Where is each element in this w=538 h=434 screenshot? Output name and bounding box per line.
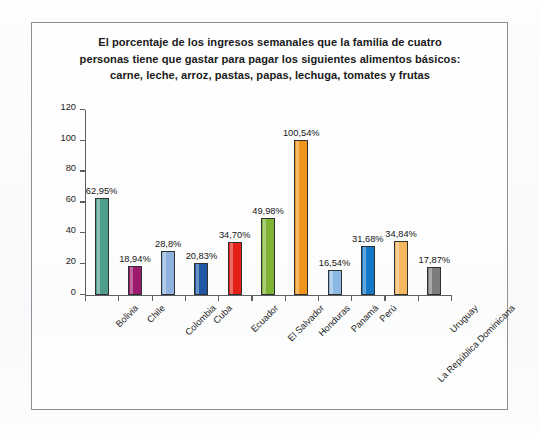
y-tick-80: 80 (80, 170, 85, 171)
y-tick-label-0: 0 (71, 287, 76, 297)
x-tick-8 (351, 295, 352, 301)
y-tick-40: 40 (80, 232, 85, 233)
bar-honduras: 100,54% (294, 140, 308, 295)
bar-uruguay: 17,87% (427, 267, 441, 295)
chart-title-line-3: carne, leche, arroz, pastas, papas, lech… (40, 67, 500, 84)
y-tick-label-80: 80 (66, 163, 76, 173)
x-tick-9 (384, 295, 385, 301)
bar-per: 31,68% (361, 246, 375, 295)
bar-highlight (429, 268, 432, 294)
bar-highlight (396, 242, 399, 294)
bar-value-label: 100,54% (283, 128, 320, 138)
chart-title-line-2: personas tiene que gastar para pagar los… (40, 51, 500, 68)
x-tick-2 (152, 295, 153, 301)
bar-value-label: 17,87% (419, 255, 451, 265)
bar-highlight (163, 252, 166, 294)
y-axis-line (85, 110, 86, 296)
bar-highlight (130, 267, 133, 294)
y-tick-label-40: 40 (66, 225, 76, 235)
x-tick-3 (185, 295, 186, 301)
y-tick-label-100: 100 (60, 133, 76, 143)
bar-value-label: 18,94% (119, 254, 151, 264)
y-tick-100: 100 (80, 140, 85, 141)
bar-highlight (97, 199, 100, 294)
bar-value-label: 28,8% (155, 239, 181, 249)
bar-el-salvador: 49,98% (261, 218, 275, 295)
x-tick-10 (418, 295, 419, 301)
chart-screenshot: El porcentaje de los ingresos semanales … (0, 0, 538, 434)
bar-bolivia: 62,95% (95, 198, 109, 295)
x-tick-6 (285, 295, 286, 301)
x-axis-line (85, 295, 451, 296)
x-tick-11 (451, 295, 452, 301)
bar-value-label: 16,54% (319, 258, 351, 268)
y-tick-label-120: 120 (60, 102, 76, 112)
x-tick-7 (318, 295, 319, 301)
bar-value-label: 34,70% (219, 230, 251, 240)
x-tick-1 (118, 295, 119, 301)
bar-cuba: 20,83% (194, 263, 208, 295)
bar-ecuador: 34,70% (228, 242, 242, 295)
bar-highlight (263, 219, 266, 294)
bar-value-label: 62,95% (86, 186, 118, 196)
bar-highlight (296, 141, 299, 294)
chart-title: El porcentaje de los ingresos semanales … (40, 34, 500, 84)
x-tick-5 (251, 295, 252, 301)
y-tick-20: 20 (80, 263, 85, 264)
x-tick-4 (218, 295, 219, 301)
y-tick-label-20: 20 (66, 256, 76, 266)
bar-colombia: 28,8% (161, 251, 175, 295)
bar-value-label: 20,83% (186, 251, 218, 261)
bar-la-rep-blica-dominicana: 34,84% (394, 241, 408, 295)
x-tick-0 (85, 295, 86, 301)
bar-panam: 16,54% (328, 270, 342, 295)
bar-value-label: 49,98% (252, 206, 284, 216)
bar-value-label: 34,84% (385, 229, 417, 239)
chart-title-line-1: El porcentaje de los ingresos semanales … (40, 34, 500, 51)
bar-highlight (363, 247, 366, 294)
bar-highlight (196, 264, 199, 294)
y-tick-60: 60 (80, 201, 85, 202)
bar-value-label: 31,68% (352, 234, 384, 244)
plot-area: 020406080100120 62,95%18,94%28,8%20,83%3… (85, 110, 451, 295)
bar-chile: 18,94% (128, 266, 142, 295)
y-tick-label-60: 60 (66, 194, 76, 204)
bar-highlight (330, 271, 333, 294)
y-tick-120: 120 (80, 109, 85, 110)
bar-highlight (230, 243, 233, 294)
